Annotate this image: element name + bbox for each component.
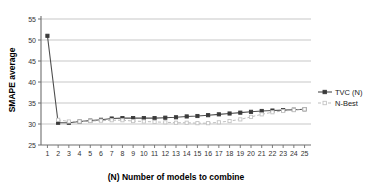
data-point — [260, 113, 263, 116]
data-point — [89, 119, 92, 122]
x-tick-label-11: 11 — [151, 150, 158, 157]
y-tick-label-25: 25 — [28, 142, 36, 149]
y-tick-label-35: 35 — [28, 100, 36, 107]
data-point — [228, 112, 231, 115]
data-point — [239, 118, 242, 121]
data-point — [260, 109, 263, 112]
data-point — [185, 115, 188, 118]
y-axis-title: SMAPE average — [7, 47, 17, 112]
data-point — [207, 122, 210, 125]
x-tick-label-3: 3 — [67, 150, 71, 157]
smape-average-line-chart: 25303540455055 1234567891011121314151617… — [0, 0, 368, 193]
x-tick-label-8: 8 — [120, 150, 124, 157]
x-tick-label-16: 16 — [204, 150, 212, 157]
data-point — [217, 113, 220, 116]
data-point — [164, 116, 167, 119]
data-point — [249, 110, 252, 113]
y-tick-label-55: 55 — [28, 16, 36, 23]
x-tick-label-24: 24 — [290, 150, 298, 157]
x-tick-label-15: 15 — [194, 150, 202, 157]
x-tick-label-5: 5 — [88, 150, 92, 157]
x-tick-label-14: 14 — [183, 150, 191, 157]
x-tick-label-19: 19 — [236, 150, 244, 157]
x-tick-label-22: 22 — [269, 150, 277, 157]
data-point — [153, 120, 156, 123]
legend-marker — [323, 90, 326, 93]
data-point — [142, 117, 145, 120]
legend-label: N-Best — [335, 99, 359, 108]
x-axis-title: (N) Number of models to combine — [108, 172, 245, 182]
x-tick-label-2: 2 — [56, 150, 60, 157]
data-point — [153, 117, 156, 120]
x-tick-label-10: 10 — [140, 150, 148, 157]
x-tick-label-1: 1 — [45, 150, 49, 157]
data-point — [217, 121, 220, 124]
data-point — [110, 119, 113, 122]
x-tick-label-18: 18 — [226, 150, 234, 157]
legend-marker — [323, 101, 326, 104]
data-point — [78, 120, 81, 123]
data-point — [207, 114, 210, 117]
data-point — [292, 109, 295, 112]
x-tick-label-6: 6 — [99, 150, 103, 157]
x-tick-label-4: 4 — [78, 150, 82, 157]
data-point — [282, 109, 285, 112]
y-tick-label-45: 45 — [28, 58, 36, 65]
data-point — [121, 119, 124, 122]
x-tick-label-20: 20 — [247, 150, 255, 157]
data-point — [99, 119, 102, 122]
data-point — [249, 115, 252, 118]
data-point — [46, 34, 49, 37]
x-tick-label-17: 17 — [215, 150, 223, 157]
y-tick-label-30: 30 — [28, 121, 36, 128]
data-point — [271, 111, 274, 114]
data-point — [239, 111, 242, 114]
data-point — [164, 121, 167, 124]
data-point — [196, 114, 199, 117]
data-point — [57, 118, 60, 121]
data-point — [174, 116, 177, 119]
x-tick-label-7: 7 — [110, 150, 114, 157]
data-point — [196, 122, 199, 125]
data-point — [228, 119, 231, 122]
x-tick-label-13: 13 — [172, 150, 180, 157]
legend-label: TVC (N) — [335, 88, 363, 97]
x-tick-label-12: 12 — [161, 150, 169, 157]
x-tick-label-25: 25 — [301, 150, 309, 157]
data-point — [174, 121, 177, 124]
x-tick-label-21: 21 — [258, 150, 266, 157]
x-tick-label-9: 9 — [131, 150, 135, 157]
y-tick-label-50: 50 — [28, 37, 36, 44]
chart-container: 25303540455055 1234567891011121314151617… — [0, 0, 368, 193]
y-tick-label-40: 40 — [28, 79, 36, 86]
data-point — [132, 119, 135, 122]
x-tick-label-23: 23 — [279, 150, 287, 157]
data-point — [303, 108, 306, 111]
data-point — [67, 120, 70, 123]
data-point — [185, 121, 188, 124]
data-point — [142, 120, 145, 123]
